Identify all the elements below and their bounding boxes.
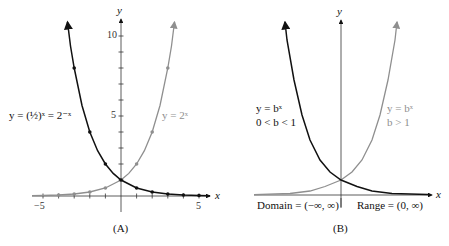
panel-a-y-tick-10: 10 xyxy=(107,29,117,40)
panel-a-x-axis-label: x xyxy=(215,189,220,202)
points-2-pow-x xyxy=(57,66,170,197)
domain-annotation: Domain = (−∞, ∞) xyxy=(257,199,339,212)
panel-a-y-tick-5: 5 xyxy=(111,109,116,120)
label-b-less-1-line2: 0 < b < 1 xyxy=(256,116,296,129)
panel-a-x-tick-max: 5 xyxy=(196,200,201,211)
range-annotation: Range = (0, ∞) xyxy=(357,199,423,212)
points-half-pow-x xyxy=(72,66,200,197)
panel-a-x-tick-min: −5 xyxy=(34,200,45,211)
label-half-pow-x: y = (½)ˣ = 2⁻ˣ xyxy=(9,109,71,122)
curve-half-pow-x xyxy=(68,22,211,196)
caption-a: (A) xyxy=(113,222,128,234)
panel-b-x-axis-label: x xyxy=(436,188,441,201)
caption-b: (B) xyxy=(333,222,348,234)
label-b-greater-1-line1: y = bˣ xyxy=(387,102,413,115)
label-2-pow-x: y = 2ˣ xyxy=(162,109,188,122)
panel-b-y-axis-label: y xyxy=(337,5,342,18)
label-b-greater-1-line2: b > 1 xyxy=(387,116,410,129)
panel-a-y-axis-label: y xyxy=(117,4,122,17)
label-b-less-1-line1: y = bˣ xyxy=(256,102,282,115)
